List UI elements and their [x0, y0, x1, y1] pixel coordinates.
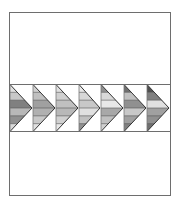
- quilt-diagram: [0, 0, 179, 204]
